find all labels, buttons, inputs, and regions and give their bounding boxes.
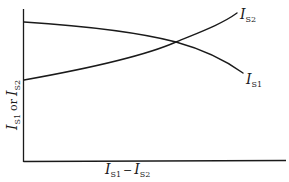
curve-i-s2 [24,13,237,80]
curve-i-s1 [24,22,243,73]
chart: IS2 IS1 IS1−IS2 IS1orIS2 [0,0,289,182]
y-axis-label: IS1orIS2 [4,80,22,131]
x-axis-label: IS1−IS2 [104,161,150,179]
x-axis [24,161,287,162]
label-i-s2: IS2 [239,6,256,24]
label-i-s1: IS1 [245,71,262,89]
